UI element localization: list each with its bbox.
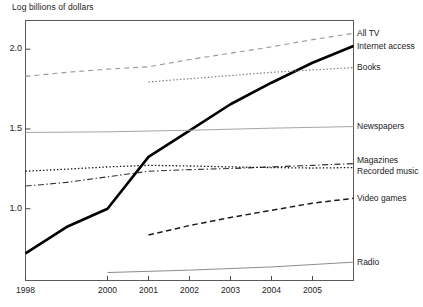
legend-label-newspapers: Newspapers xyxy=(357,121,404,131)
y-tick-label: 1.5 xyxy=(2,123,22,133)
x-tick-label: 2000 xyxy=(91,285,125,295)
series-line-radio xyxy=(108,262,354,272)
x-tick-label: 2001 xyxy=(132,285,166,295)
series-line-internet-access xyxy=(26,46,354,253)
legend-label-radio: Radio xyxy=(357,257,379,267)
legend-label-magazines: Magazines xyxy=(357,155,398,165)
series-line-recorded-music xyxy=(26,165,354,171)
chart-container: Log billions of dollars 1.01.52.0 199820… xyxy=(0,0,423,307)
x-tick-label: 2004 xyxy=(255,285,289,295)
legend-label-internet-access: Internet access xyxy=(357,41,415,51)
x-tick-label: 2005 xyxy=(296,285,330,295)
x-tick-label: 2002 xyxy=(173,285,207,295)
y-tick-label: 1.0 xyxy=(2,203,22,213)
legend-label-books: Books xyxy=(357,62,381,72)
y-tick-label: 2.0 xyxy=(2,43,22,53)
series-line-all-tv xyxy=(26,33,354,76)
legend-label-all-tv: All TV xyxy=(357,28,380,38)
series-line-magazines xyxy=(26,164,354,186)
x-tick-label: 1998 xyxy=(9,285,43,295)
series-line-books xyxy=(149,68,354,82)
legend-label-recorded-music: Recorded music xyxy=(357,166,418,176)
series-line-video-games xyxy=(149,198,354,235)
x-tick-label: 2003 xyxy=(214,285,248,295)
legend-label-video-games: Video games xyxy=(357,193,406,203)
